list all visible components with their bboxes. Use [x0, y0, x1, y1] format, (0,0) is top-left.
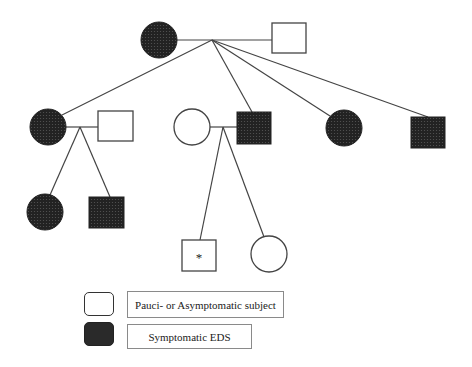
individual-iii2-affected-male — [89, 197, 124, 228]
individual-iii4-unaffected-female — [251, 236, 287, 272]
individual-ii2-spouse-unaffected-female — [174, 109, 210, 145]
individual-ii4-affected-male — [411, 117, 445, 148]
proband-marker: * — [196, 250, 203, 265]
individual-iii1-affected-female — [27, 194, 63, 230]
individual-ii3-affected-female — [326, 110, 362, 146]
legend-label-affected: Symptomatic EDS — [148, 331, 230, 343]
individual-i2-unaffected-male — [272, 23, 306, 53]
legend-swatch-unaffected — [84, 292, 114, 316]
legend-swatch-affected — [84, 322, 114, 346]
legend-label-box-affected: Symptomatic EDS — [127, 324, 252, 349]
descent-line-iii3 — [200, 127, 223, 240]
individual-ii1-spouse-unaffected-male — [98, 111, 133, 141]
individual-ii1-affected-female — [30, 109, 66, 145]
individual-i1-affected-female — [141, 22, 177, 58]
descent-line-ii3 — [212, 40, 330, 116]
descent-line-ii2 — [212, 40, 252, 112]
individual-ii2-affected-male — [237, 112, 271, 144]
descent-line-ii4 — [212, 40, 428, 117]
descent-line-ii1 — [62, 40, 212, 115]
legend-label-unaffected: Pauci- or Asymptomatic subject — [135, 299, 276, 311]
legend-label-box-unaffected: Pauci- or Asymptomatic subject — [127, 291, 284, 318]
